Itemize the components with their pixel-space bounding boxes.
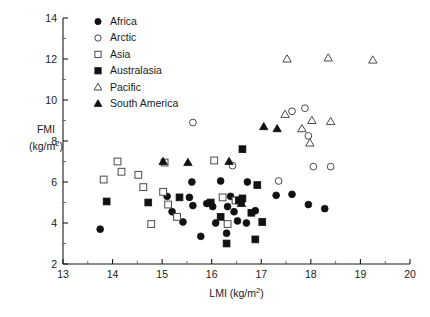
data-point-open-square bbox=[114, 158, 121, 165]
legend-item-africa: Africa bbox=[95, 15, 137, 27]
y-tick-label: 12 bbox=[45, 53, 57, 65]
data-point-filled-square bbox=[217, 213, 224, 220]
data-point-filled-triangle bbox=[225, 157, 233, 164]
data-point-open-circle bbox=[305, 132, 312, 139]
data-point-filled-circle bbox=[189, 202, 196, 209]
data-point-filled-circle bbox=[97, 226, 104, 233]
data-point-open-square bbox=[219, 194, 226, 201]
data-point-open-square bbox=[135, 171, 142, 178]
x-tick-label: 15 bbox=[156, 268, 168, 280]
data-point-open-circle bbox=[189, 119, 196, 126]
data-point-open-square bbox=[140, 184, 147, 191]
legend-item-australasia: Australasia bbox=[95, 64, 162, 76]
data-point-filled-square bbox=[223, 240, 230, 247]
data-point-filled-square bbox=[176, 194, 183, 201]
data-point-open-triangle bbox=[94, 83, 102, 90]
legend-item-pacific: Pacific bbox=[94, 81, 141, 93]
legend-item-south-america: South America bbox=[94, 97, 178, 109]
data-point-open-circle bbox=[275, 178, 282, 185]
data-point-open-circle bbox=[289, 108, 296, 115]
data-point-filled-circle bbox=[321, 205, 328, 212]
data-point-open-circle bbox=[310, 163, 317, 170]
data-point-filled-square bbox=[95, 68, 101, 74]
data-point-filled-circle bbox=[289, 191, 296, 198]
data-point-open-triangle bbox=[308, 116, 316, 123]
y-tick-label: 4 bbox=[51, 217, 57, 229]
data-point-filled-circle bbox=[223, 230, 230, 237]
y-axis-title-line1: FMI bbox=[37, 123, 55, 135]
data-point-filled-triangle bbox=[184, 158, 192, 165]
legend-label: Asia bbox=[110, 48, 131, 60]
data-point-open-square bbox=[100, 176, 107, 183]
legend-item-asia: Asia bbox=[95, 48, 131, 60]
data-point-open-square bbox=[224, 221, 231, 228]
data-point-open-triangle bbox=[324, 54, 332, 61]
data-point-filled-triangle bbox=[273, 125, 281, 132]
data-point-open-triangle bbox=[281, 110, 289, 117]
data-point-filled-circle bbox=[243, 220, 250, 227]
data-point-filled-square bbox=[252, 236, 259, 243]
data-point-filled-square bbox=[239, 146, 246, 153]
x-tick-label: 13 bbox=[57, 268, 69, 280]
legend-item-arctic: Arctic bbox=[95, 31, 136, 43]
x-tick-label: 17 bbox=[255, 268, 267, 280]
data-point-open-square bbox=[95, 51, 101, 57]
data-point-open-square bbox=[165, 201, 172, 208]
data-point-open-square bbox=[118, 168, 125, 175]
data-point-filled-square bbox=[248, 209, 255, 216]
y-tick-label: 10 bbox=[45, 94, 57, 106]
data-point-filled-triangle bbox=[260, 122, 268, 129]
plot-canvas: 13141516171819202468101214LMI (kg/m2)FMI… bbox=[0, 0, 430, 317]
x-tick-label: 19 bbox=[355, 268, 367, 280]
data-point-filled-circle bbox=[273, 192, 280, 199]
legend-label: Arctic bbox=[110, 31, 136, 43]
data-point-filled-triangle bbox=[94, 100, 102, 107]
x-tick-label: 20 bbox=[404, 268, 416, 280]
data-point-filled-circle bbox=[217, 178, 224, 185]
data-point-filled-circle bbox=[95, 18, 101, 24]
x-tick-label: 14 bbox=[107, 268, 119, 280]
data-point-open-triangle bbox=[283, 55, 291, 62]
y-tick-label: 2 bbox=[51, 258, 57, 270]
legend-label: South America bbox=[110, 97, 178, 109]
data-point-open-circle bbox=[302, 105, 309, 112]
data-point-filled-circle bbox=[188, 179, 195, 186]
data-point-open-square bbox=[174, 213, 181, 220]
data-point-filled-square bbox=[207, 199, 214, 206]
data-point-open-square bbox=[211, 157, 218, 164]
data-point-filled-square bbox=[145, 199, 152, 206]
data-point-open-triangle bbox=[298, 125, 306, 132]
data-point-filled-circle bbox=[234, 218, 241, 225]
data-point-open-circle bbox=[95, 35, 101, 41]
data-point-open-square bbox=[160, 188, 167, 195]
legend-label: Pacific bbox=[110, 81, 141, 93]
data-point-open-triangle bbox=[326, 117, 334, 124]
series-australasia bbox=[103, 146, 265, 247]
legend-label: Australasia bbox=[110, 64, 162, 76]
x-axis-title: LMI (kg/m2) bbox=[209, 286, 263, 300]
data-point-filled-circle bbox=[231, 208, 238, 215]
y-tick-label: 6 bbox=[51, 176, 57, 188]
data-point-filled-square bbox=[103, 198, 110, 205]
series-pacific bbox=[281, 54, 377, 146]
legend-label: Africa bbox=[110, 15, 137, 27]
data-point-open-circle bbox=[327, 163, 334, 170]
data-point-filled-circle bbox=[197, 233, 204, 240]
data-point-filled-square bbox=[259, 219, 266, 226]
data-point-filled-square bbox=[254, 182, 261, 189]
data-point-filled-circle bbox=[186, 194, 193, 201]
data-point-open-triangle bbox=[306, 139, 314, 146]
series-africa bbox=[97, 178, 328, 240]
x-tick-label: 16 bbox=[206, 268, 218, 280]
x-tick-label: 18 bbox=[305, 268, 317, 280]
data-point-filled-circle bbox=[224, 203, 231, 210]
data-point-open-triangle bbox=[369, 56, 377, 63]
data-point-filled-circle bbox=[244, 179, 251, 186]
y-axis-title-line2: (kg/m2) bbox=[29, 139, 63, 153]
data-point-filled-circle bbox=[305, 201, 312, 208]
y-tick-label: 14 bbox=[45, 12, 57, 24]
scatter-plot-figure: 13141516171819202468101214LMI (kg/m2)FMI… bbox=[0, 0, 430, 317]
data-point-open-square bbox=[148, 221, 155, 228]
